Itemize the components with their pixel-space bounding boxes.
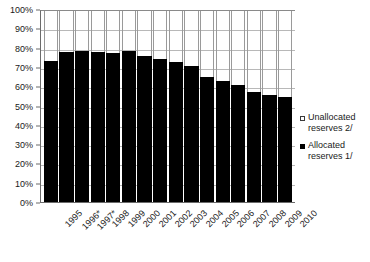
- bar-segment-unallocated: [262, 11, 276, 95]
- bar-segment-unallocated: [75, 11, 89, 51]
- bar-segment-unallocated: [216, 11, 230, 81]
- y-tick-label: 100%: [10, 6, 33, 15]
- bar-segment-unallocated: [91, 11, 105, 52]
- bar-segment-allocated: [278, 97, 292, 202]
- bar-segment-allocated: [122, 51, 136, 202]
- hollow-square-icon: [300, 116, 305, 121]
- bar-segment-allocated: [106, 53, 120, 202]
- y-tick-label: 80%: [15, 44, 33, 53]
- bar-group: [122, 11, 136, 202]
- bar-segment-allocated: [247, 92, 261, 202]
- y-tick-label: 70%: [15, 63, 33, 72]
- bar-group: [44, 11, 58, 202]
- bar-segment-unallocated: [106, 11, 120, 53]
- bar-segment-allocated: [44, 61, 58, 202]
- bar-segment-unallocated: [169, 11, 183, 62]
- stacked-bar-chart: 100%90%80%70%60%50%40%30%20%10%0% 199519…: [0, 0, 370, 262]
- bar-group: [247, 11, 261, 202]
- bar-group: [106, 11, 120, 202]
- y-axis: 100%90%80%70%60%50%40%30%20%10%0%: [0, 0, 36, 212]
- bar-segment-unallocated: [278, 11, 292, 97]
- bar-segment-unallocated: [184, 11, 198, 66]
- filled-square-icon: [300, 144, 305, 149]
- bar-group: [200, 11, 214, 202]
- bar-segment-allocated: [216, 81, 230, 202]
- y-tick-label: 60%: [15, 83, 33, 92]
- bar-segment-allocated: [200, 77, 214, 202]
- x-axis: 19951996*1997*19981999200020012002200320…: [40, 204, 295, 262]
- bar-segment-allocated: [91, 52, 105, 202]
- bar-segment-unallocated: [137, 11, 151, 56]
- bar-group: [216, 11, 230, 202]
- bar-segment-allocated: [169, 62, 183, 202]
- bar-group: [75, 11, 89, 202]
- legend-item[interactable]: Unallocated reserves 2/: [300, 112, 370, 134]
- y-tick-label: 40%: [15, 121, 33, 130]
- bar-segment-allocated: [184, 66, 198, 202]
- bar-group: [137, 11, 151, 202]
- legend-label: Allocated reserves 1/: [308, 140, 370, 162]
- x-tick-label: 2010: [298, 208, 319, 229]
- bar-group: [262, 11, 276, 202]
- y-tick-label: 10%: [15, 179, 33, 188]
- bar-group: [153, 11, 167, 202]
- bar-group: [169, 11, 183, 202]
- y-tick-label: 50%: [15, 102, 33, 111]
- bar-group: [184, 11, 198, 202]
- bar-segment-unallocated: [231, 11, 245, 85]
- bar-segment-allocated: [262, 95, 276, 202]
- y-tick-label: 30%: [15, 141, 33, 150]
- y-tick-label: 20%: [15, 160, 33, 169]
- bar-segment-allocated: [153, 59, 167, 202]
- bar-segment-allocated: [231, 85, 245, 202]
- bar-segment-allocated: [75, 51, 89, 202]
- legend-label: Unallocated reserves 2/: [308, 112, 370, 134]
- bar-group: [59, 11, 73, 202]
- bar-segment-unallocated: [122, 11, 136, 51]
- bar-group: [91, 11, 105, 202]
- bar-group: [231, 11, 245, 202]
- y-tick-label: 90%: [15, 25, 33, 34]
- bars-layer: [41, 11, 295, 202]
- bar-segment-unallocated: [247, 11, 261, 92]
- bar-segment-allocated: [59, 52, 73, 202]
- bar-segment-allocated: [137, 56, 151, 202]
- bar-segment-unallocated: [200, 11, 214, 77]
- plot-area: [40, 10, 295, 203]
- bar-segment-unallocated: [44, 11, 58, 61]
- bar-segment-unallocated: [153, 11, 167, 59]
- bar-group: [278, 11, 292, 202]
- chart-legend: Unallocated reserves 2/Allocated reserve…: [300, 112, 370, 168]
- y-tick-label: 0%: [20, 199, 33, 208]
- legend-item[interactable]: Allocated reserves 1/: [300, 140, 370, 162]
- bar-segment-unallocated: [59, 11, 73, 52]
